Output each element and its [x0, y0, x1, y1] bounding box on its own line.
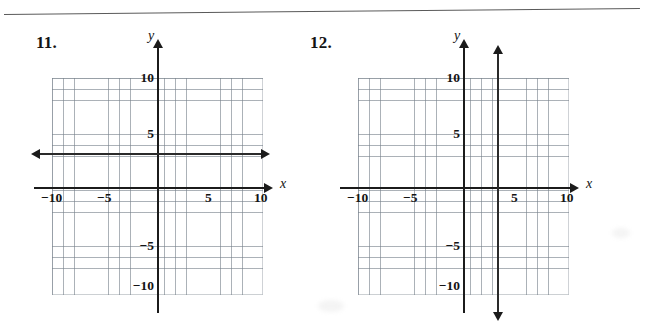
- y-axis-arrow-icon-11: [153, 39, 163, 48]
- y-tick-label-10-11: 10: [126, 70, 154, 86]
- x-tick-label-neg5-11: −5: [97, 190, 111, 206]
- y-tick-label-neg10-11: −10: [114, 278, 154, 294]
- scan-smudge: [612, 228, 630, 238]
- x-tick-label-5-11: 5: [205, 190, 212, 206]
- x-tick-label-neg10-11: −10: [41, 190, 62, 206]
- x-tick-label-5-12: 5: [511, 190, 518, 206]
- plotted-line-arrow-right-icon-11: [261, 149, 270, 159]
- y-axis-arrow-icon-12: [459, 39, 469, 48]
- x-axis-label-11: x: [280, 176, 286, 192]
- scan-smudge: [318, 300, 344, 312]
- worksheet-page: 11. x y −10 −5 5 10 10 5 −5 −10 12. x: [0, 0, 645, 329]
- problem-number-12: 12.: [310, 33, 332, 53]
- x-axis-11: [34, 187, 266, 189]
- plotted-line-arrow-down-icon-12: [493, 312, 503, 321]
- x-axis-12: [340, 187, 572, 189]
- x-tick-label-10-11: 10: [254, 190, 268, 206]
- y-tick-label-neg5-12: −5: [426, 238, 460, 254]
- y-tick-label-neg5-11: −5: [120, 238, 154, 254]
- x-axis-label-12: x: [586, 176, 592, 192]
- y-tick-label-5-12: 5: [432, 126, 460, 142]
- x-tick-label-neg5-12: −5: [403, 190, 417, 206]
- x-tick-label-neg10-12: −10: [347, 190, 368, 206]
- y-axis-12: [463, 47, 465, 313]
- plotted-line-arrow-left-icon-11: [31, 149, 40, 159]
- y-tick-label-5-11: 5: [126, 126, 154, 142]
- y-axis-label-12: y: [454, 28, 460, 44]
- y-axis-label-11: y: [148, 28, 154, 44]
- y-tick-label-neg10-12: −10: [420, 278, 460, 294]
- plotted-line-horizontal-11: [40, 153, 262, 155]
- problem-11: 11. x y −10 −5 5 10 10 5 −5 −10: [0, 0, 322, 329]
- y-axis-11: [157, 47, 159, 313]
- y-tick-label-10-12: 10: [432, 70, 460, 86]
- problem-12: 12. x y −10 −5 5 10 10 5 −5 −10: [300, 0, 622, 329]
- plotted-line-arrow-up-icon-12: [493, 45, 503, 54]
- problem-number-11: 11.: [36, 33, 57, 53]
- x-tick-label-10-12: 10: [560, 190, 574, 206]
- plotted-line-vertical-12: [497, 53, 499, 313]
